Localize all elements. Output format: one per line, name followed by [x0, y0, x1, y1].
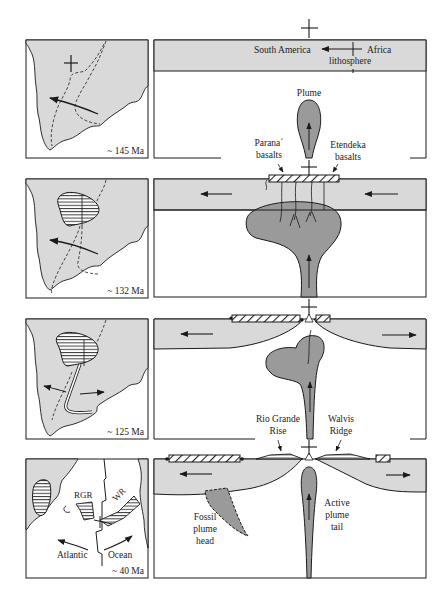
- ridge-cross-icon: [301, 19, 318, 38]
- label-walvis-ridge: Ridge: [330, 426, 353, 436]
- label-atlantic: Atlantic: [57, 550, 88, 560]
- ridge-cross-icon: [301, 160, 317, 175]
- label-active-plume: plume: [325, 510, 349, 520]
- age-label: ~ 145 Ma: [107, 146, 145, 156]
- label-south-america: South America: [254, 45, 312, 55]
- ridge-cross-icon: [301, 299, 317, 315]
- flood-basalt-layer: [269, 175, 339, 182]
- lithosphere-band: [314, 319, 426, 349]
- label-etendeka: Etendeka: [330, 140, 366, 150]
- label-fossil: Fossil: [194, 512, 217, 522]
- section-panel-40ma: Fossil plume head Active plume tail: [154, 440, 426, 578]
- label-fossil-head: head: [196, 536, 214, 546]
- age-label: ~ 40 Ma: [112, 566, 145, 576]
- label-ocean: Ocean: [108, 550, 133, 560]
- label-fossil-plume: plume: [193, 524, 217, 534]
- parana-basalt-layer: [232, 315, 300, 322]
- parana-basalt-layer: [169, 455, 240, 462]
- ridge-cross-icon: [301, 440, 317, 455]
- label-parana: Parana´: [254, 138, 283, 148]
- label-walvis: Walvis: [328, 414, 354, 424]
- age-label: ~ 132 Ma: [107, 286, 145, 296]
- section-panel-145ma: South America Africa lithosphere Plume P…: [154, 19, 426, 162]
- label-lithosphere: lithosphere: [329, 56, 371, 66]
- map-panel-145ma: ~ 145 Ma: [26, 40, 148, 158]
- lithosphere-band: [154, 319, 303, 349]
- label-africa: Africa: [367, 45, 392, 55]
- label-parana-basalts: basalts: [256, 150, 282, 160]
- label-plume: Plume: [297, 88, 321, 98]
- row-145ma: ~ 145 Ma South America Africa lithospher…: [26, 19, 426, 162]
- etendeka-basalt-layer: [316, 315, 330, 322]
- etendeka-basalt-layer: [376, 455, 390, 462]
- walvis-ridge-section: [315, 454, 370, 459]
- section-panel-125ma: Rio Grande Rise Walvis Ridge: [154, 299, 426, 439]
- label-rio-grande: Rio Grande: [256, 414, 300, 424]
- map-panel-125ma: ~ 125 Ma: [26, 319, 148, 439]
- label-etendeka-basalts: basalts: [335, 152, 361, 162]
- label-active-tail: tail: [331, 522, 343, 532]
- row-40ma: RGR WR Atlantic Ocean ~ 40 Ma: [26, 440, 426, 578]
- rio-grande-rise-section: [256, 454, 303, 459]
- age-label: ~ 125 Ma: [107, 427, 145, 437]
- label-active: Active: [324, 498, 349, 508]
- row-125ma: ~ 125 Ma Rio Grande Rise Walvis Ridge: [26, 299, 426, 439]
- label-rgr: RGR: [74, 490, 93, 500]
- label-rio-grande-rise: Rise: [270, 426, 287, 436]
- map-panel-132ma: ~ 132 Ma: [26, 179, 148, 298]
- map-panel-40ma: RGR WR Atlantic Ocean ~ 40 Ma: [26, 459, 148, 578]
- plume-evolution-figure: ~ 145 Ma South America Africa lithospher…: [0, 0, 448, 597]
- section-panel-132ma: [154, 160, 426, 297]
- ridge-volcano: [305, 314, 313, 322]
- row-132ma: ~ 132 Ma: [26, 160, 426, 298]
